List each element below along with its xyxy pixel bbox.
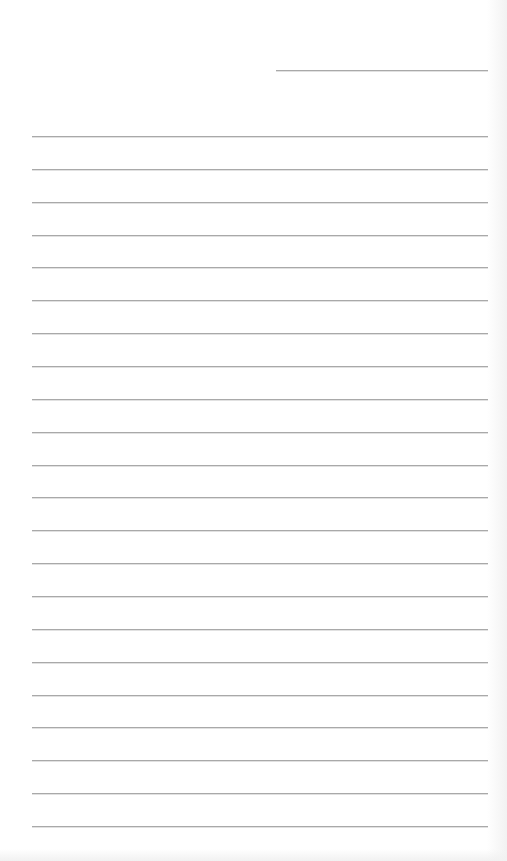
ruled-line [32,399,488,400]
ruled-lines [0,0,507,861]
ruled-line [32,300,488,301]
page-edge-shadow [0,849,507,861]
ruled-line [32,629,488,630]
ruled-line [32,662,488,663]
ruled-line [32,267,488,268]
ruled-line [32,235,488,236]
ruled-line [32,432,488,433]
lined-paper-page [0,0,507,861]
ruled-line [32,366,488,367]
ruled-line [32,563,488,564]
ruled-line [32,497,488,498]
ruled-line [32,169,488,170]
ruled-line [32,530,488,531]
ruled-line [32,596,488,597]
ruled-line [32,202,488,203]
ruled-line [32,465,488,466]
ruled-line [32,136,488,137]
ruled-line [32,695,488,696]
ruled-line [32,727,488,728]
ruled-line [32,333,488,334]
ruled-line [32,793,488,794]
ruled-line [32,826,488,827]
ruled-line [32,760,488,761]
